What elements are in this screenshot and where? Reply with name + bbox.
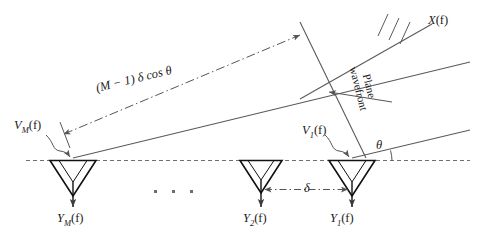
source-tick-2	[389, 18, 399, 40]
diagram-vector-layer	[0, 0, 494, 236]
array-geometry-diagram: X(f) VM(f) V1(f) YM(f) Y2(f) Y1(f) θ δ (…	[0, 0, 494, 236]
sensor-m-input-label: VM(f)	[14, 119, 41, 134]
ellipsis-dot	[154, 190, 157, 193]
sensor-2-antenna	[240, 161, 282, 208]
source-tick-1	[378, 14, 388, 36]
source-tick-3	[400, 22, 410, 44]
source-signal-label: X(f)	[428, 14, 448, 27]
path-difference-reference-bar	[60, 122, 70, 148]
sensor-2-output-label: Y2(f)	[243, 212, 267, 227]
ellipsis-dot	[190, 190, 193, 193]
element-spacing-label: δ	[304, 182, 310, 195]
incidence-angle-label: θ	[376, 139, 382, 152]
v1-callout-arrow	[325, 135, 349, 157]
sensor-1-input-label: V1(f)	[302, 124, 326, 139]
incident-ray-to-sensor-1	[352, 130, 470, 158]
sensor-1-antenna	[329, 161, 375, 208]
sensor-m-output-label: YM(f)	[57, 212, 84, 227]
sensor-m-antenna	[50, 161, 96, 208]
ellipsis-dot	[172, 190, 175, 193]
sensor-1-output-label: Y1(f)	[330, 212, 354, 227]
theta-angle-arc	[391, 150, 393, 160]
